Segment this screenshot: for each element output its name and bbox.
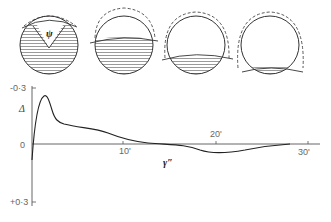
figure: ψ -0·3 Δ 0 +0·3 [0,0,331,222]
y-tick-zero: 0 [20,140,25,150]
y-axis-label: Δ [18,103,25,114]
drop-diagram-2 [90,8,158,80]
drop-diagram-1: ψ [15,16,85,80]
delta-curve [32,96,290,160]
x-tick-10: 10' [119,146,131,156]
x-axis-label: γ″ [163,157,173,168]
drop-diagram-3 [160,12,233,80]
x-tick-30: 30' [298,147,310,157]
y-tick-bottom: +0·3 [10,197,28,207]
y-tick-top: -0·3 [10,83,26,93]
drop-diagram-4 [235,12,305,80]
x-tick-20: 20' [210,129,222,139]
chart-axes [32,86,320,206]
psi-label: ψ [46,28,53,39]
